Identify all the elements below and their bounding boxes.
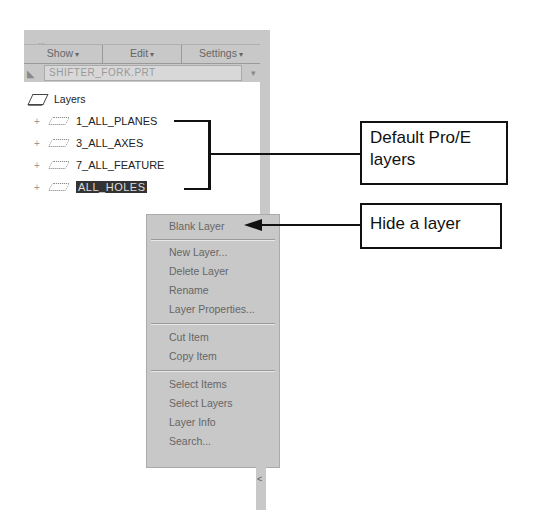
scroll-left-icon[interactable]: < — [257, 474, 262, 484]
menu-item-layer-properties[interactable]: Layer Properties... — [147, 300, 279, 319]
model-selector[interactable]: SHIFTER_FORK.PRT — [44, 65, 242, 81]
bracket-vertical — [208, 120, 211, 190]
panel-tab-strip: ... — [24, 30, 260, 45]
tree-item-3-all-axes[interactable]: + 3_ALL_AXES — [24, 134, 143, 152]
model-selector-row: ◣ SHIFTER_FORK.PRT ▾ — [24, 64, 260, 82]
tree-root-layers[interactable]: Layers — [24, 90, 86, 108]
show-label: Show — [47, 47, 73, 59]
tree-item-all-holes[interactable]: + ALL_HOLES — [24, 178, 147, 196]
callout-line-hide — [256, 224, 360, 226]
expand-icon[interactable]: + — [32, 138, 42, 149]
menu-item-copy-item[interactable]: Copy Item — [147, 347, 279, 366]
context-menu: Blank Layer New Layer... Delete Layer Re… — [146, 214, 280, 468]
scrollbar-stub[interactable]: < — [256, 466, 266, 510]
callout-default-layers-text: Default Pro/E layers — [370, 128, 471, 169]
settings-label: Settings — [199, 47, 237, 59]
tree-item-label-selected: ALL_HOLES — [76, 181, 147, 193]
layer-icon — [48, 117, 71, 125]
bracket-bottom — [184, 188, 211, 190]
callout-line-default — [210, 153, 360, 155]
menu-separator — [151, 323, 275, 325]
layer-icon — [48, 161, 71, 169]
layer-icon — [48, 139, 71, 147]
menu-item-select-layers[interactable]: Select Layers — [147, 394, 279, 413]
menu-item-cut-item[interactable]: Cut Item — [147, 328, 279, 347]
menu-item-layer-info[interactable]: Layer Info — [147, 413, 279, 432]
chevron-down-icon: ▾ — [150, 50, 154, 59]
settings-menu-button[interactable]: Settings▾ — [182, 45, 260, 63]
callout-hide-layer-text: Hide a layer — [370, 214, 461, 233]
menu-item-delete-layer[interactable]: Delete Layer — [147, 262, 279, 281]
tree-item-label: 1_ALL_PLANES — [76, 115, 157, 127]
edit-label: Edit — [130, 47, 148, 59]
expand-icon[interactable]: + — [32, 160, 42, 171]
tree-item-1-all-planes[interactable]: + 1_ALL_PLANES — [24, 112, 157, 130]
tree-item-7-all-feature[interactable]: + 7_ALL_FEATURE — [24, 156, 164, 174]
panel-menubar: Show▾ Edit▾ Settings▾ — [24, 45, 260, 64]
arrow-pointer-icon[interactable]: ◣ — [24, 68, 38, 79]
layer-icon — [48, 183, 71, 191]
expand-icon[interactable]: + — [32, 182, 42, 193]
menu-item-new-layer[interactable]: New Layer... — [147, 243, 279, 262]
callout-hide-layer: Hide a layer — [360, 203, 502, 249]
tree-root-label: Layers — [54, 93, 86, 105]
chevron-down-icon: ▾ — [75, 50, 79, 59]
tree-item-label: 3_ALL_AXES — [76, 137, 143, 149]
bracket-top — [174, 120, 211, 122]
menu-item-rename[interactable]: Rename — [147, 281, 279, 300]
chevron-down-icon: ▾ — [239, 50, 243, 59]
menu-separator — [151, 239, 275, 241]
expand-icon[interactable]: + — [32, 116, 42, 127]
layers-icon — [27, 94, 48, 105]
show-menu-button[interactable]: Show▾ — [24, 45, 103, 63]
menu-item-search[interactable]: Search... — [147, 432, 279, 451]
edit-menu-button[interactable]: Edit▾ — [103, 45, 182, 63]
arrow-head-icon — [244, 219, 262, 231]
menu-separator — [151, 370, 275, 372]
chevron-down-icon[interactable]: ▾ — [246, 68, 260, 78]
menu-item-select-items[interactable]: Select Items — [147, 375, 279, 394]
tree-item-label: 7_ALL_FEATURE — [76, 159, 164, 171]
callout-default-layers: Default Pro/E layers — [360, 121, 508, 185]
